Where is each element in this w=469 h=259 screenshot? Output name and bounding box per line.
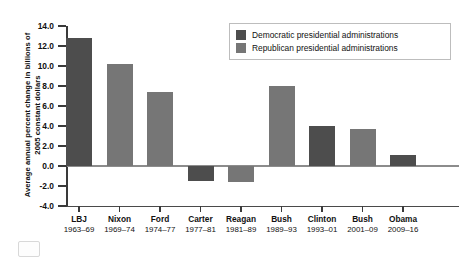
x-label-name: Bush: [271, 214, 292, 224]
y-tick-8.0: [58, 85, 66, 86]
y-tick-label--4.0: -4.0: [40, 201, 54, 211]
page-corner-artifact: [18, 241, 40, 257]
legend-label-republican: Republican presidential administrations: [252, 43, 398, 53]
legend-item-democratic: Democratic presidential administrations: [236, 28, 444, 41]
y-tick-label-0.0: 0.0: [42, 161, 54, 171]
x-tick-6: [321, 206, 322, 212]
bar-chart-figure: Average annual percent change in billion…: [0, 0, 469, 259]
x-label-name: Ford: [151, 214, 169, 224]
y-tick-label-4.0: 4.0: [42, 121, 54, 131]
y-tick-14.0: [58, 25, 66, 26]
x-label-name: Bush: [352, 214, 373, 224]
y-tick--2.0: [58, 185, 66, 186]
x-label-name: Reagan: [226, 214, 256, 224]
y-tick-label--2.0: -2.0: [40, 181, 54, 191]
bar-bush-7: [350, 129, 376, 166]
x-tick-7: [362, 206, 363, 212]
bar-carter-3: [188, 166, 214, 181]
bar-bush-5: [269, 86, 295, 166]
bar-ford-2: [147, 92, 173, 166]
y-tick-12.0: [58, 45, 66, 46]
legend-swatch-republican: [236, 43, 246, 53]
x-tick-1: [119, 206, 120, 212]
y-tick-4.0: [58, 125, 66, 126]
legend-item-republican: Republican presidential administrations: [236, 41, 444, 54]
y-tick-label-14.0: 14.0: [38, 21, 54, 31]
x-label-name: Clinton: [308, 214, 337, 224]
bar-nixon-1: [107, 64, 133, 166]
y-tick-6.0: [58, 105, 66, 106]
x-label-years: 2009–16: [374, 225, 432, 236]
x-tick-8: [402, 206, 403, 212]
y-tick-label-8.0: 8.0: [42, 81, 54, 91]
x-label-name: LBJ: [71, 214, 87, 224]
y-tick-10.0: [58, 65, 66, 66]
chart-legend: Democratic presidential administrations …: [229, 23, 451, 60]
x-tick-2: [159, 206, 160, 212]
x-tick-3: [200, 206, 201, 212]
bar-reagan-4: [228, 166, 254, 182]
y-tick-label-12.0: 12.0: [38, 41, 54, 51]
legend-label-democratic: Democratic presidential administrations: [252, 30, 398, 40]
bar-lbj-0: [66, 38, 92, 166]
legend-swatch-democratic: [236, 30, 246, 40]
x-tick-0: [78, 206, 79, 212]
x-axis-line: [67, 206, 459, 207]
y-tick-2.0: [58, 145, 66, 146]
y-tick-label-2.0: 2.0: [42, 141, 54, 151]
bar-obama-8: [390, 155, 416, 166]
bar-clinton-6: [309, 126, 335, 166]
x-tick-4: [240, 206, 241, 212]
x-axis-label-8: Obama2009–16: [374, 214, 432, 235]
y-tick-label-10.0: 10.0: [38, 61, 54, 71]
x-tick-5: [281, 206, 282, 212]
y-tick-0.0: [58, 165, 66, 166]
y-tick-label-6.0: 6.0: [42, 101, 54, 111]
x-label-name: Nixon: [108, 214, 131, 224]
x-label-name: Carter: [188, 214, 212, 224]
x-label-name: Obama: [389, 214, 417, 224]
y-tick--4.0: [58, 205, 66, 206]
